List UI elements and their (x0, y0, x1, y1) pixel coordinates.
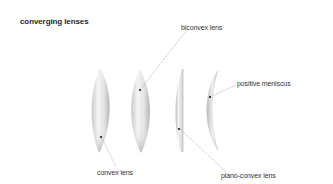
biconvex-anchor-dot (139, 89, 141, 91)
convex-anchor-dot (100, 136, 102, 138)
convex-lens-shape (92, 68, 110, 153)
convex-lens-label: convex lens (97, 169, 133, 176)
plano-convex-anchor-dot (178, 128, 180, 130)
plano-convex-leader-line (180, 129, 226, 172)
biconvex-lens-shape (131, 69, 150, 153)
biconvex-lens-label: biconvex lens (181, 24, 222, 31)
diagram-canvas: converging lenses (0, 0, 333, 184)
convex-leader-line (102, 138, 116, 167)
lens-illustration (0, 0, 333, 184)
plano-convex-lens-shape (175, 69, 183, 152)
positive-meniscus-shape (207, 71, 218, 150)
positive-meniscus-label: positive meniscus (237, 80, 291, 87)
plano-convex-lens-label: plano-convex lens (221, 172, 276, 179)
positive-meniscus-anchor-dot (209, 96, 211, 98)
